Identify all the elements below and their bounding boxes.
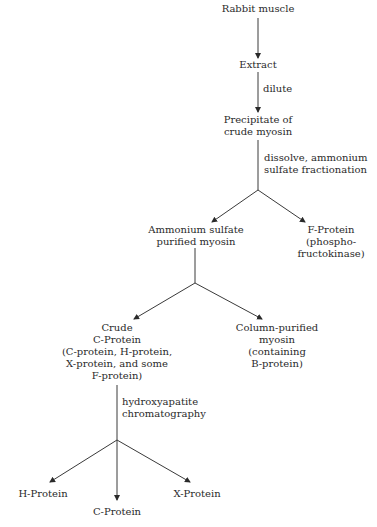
- node-text: purified myosin: [140, 236, 252, 248]
- node-text: C-Protein: [82, 506, 152, 518]
- node-ammonium-purified: Ammonium sulfate purified myosin: [140, 224, 252, 248]
- node-text: (C-protein, H-protein,: [50, 346, 184, 358]
- step-text: dilute: [263, 83, 292, 95]
- arrow-to-f-protein: [258, 190, 305, 222]
- step-dissolve: dissolve, ammonium sulfate fractionation: [264, 152, 368, 176]
- node-text: H-Protein: [8, 488, 78, 500]
- node-c-protein: C-Protein: [82, 506, 152, 518]
- arrow-to-ammonium-purified: [212, 190, 258, 222]
- node-text: Ammonium sulfate: [140, 224, 252, 236]
- node-x-protein: X-Protein: [162, 488, 232, 500]
- step-dilute: dilute: [263, 83, 292, 95]
- node-rabbit-muscle: Rabbit muscle: [208, 3, 308, 15]
- node-text: (containing: [222, 346, 332, 358]
- step-text: hydroxyapatite: [122, 396, 206, 408]
- node-text: Precipitate of: [203, 114, 313, 126]
- step-text: chromatography: [122, 408, 206, 420]
- node-text: myosin: [222, 334, 332, 346]
- flow-arrows: [0, 0, 377, 527]
- node-text: C-Protein: [50, 334, 184, 346]
- node-text: Crude: [50, 322, 184, 334]
- arrow-to-crude-c-protein: [134, 283, 195, 319]
- node-text: Column-purified: [222, 322, 332, 334]
- arrow-to-x-protein: [117, 440, 190, 482]
- node-f-protein: F-Protein (phospho- fructokinase): [288, 224, 374, 260]
- node-text: crude myosin: [203, 126, 313, 138]
- node-crude-c-protein: Crude C-Protein (C-protein, H-protein, X…: [50, 322, 184, 382]
- node-text: F-protein): [50, 370, 184, 382]
- node-column-purified: Column-purified myosin (containing B-pro…: [222, 322, 332, 370]
- node-text: F-Protein: [288, 224, 374, 236]
- arrow-to-h-protein: [50, 440, 117, 482]
- node-text: (phospho-: [288, 236, 374, 248]
- node-text: B-protein): [222, 358, 332, 370]
- node-extract: Extract: [218, 59, 298, 71]
- node-text: Rabbit muscle: [208, 3, 308, 15]
- node-h-protein: H-Protein: [8, 488, 78, 500]
- step-text: sulfate fractionation: [264, 164, 368, 176]
- node-text: Extract: [218, 59, 298, 71]
- step-hydroxyapatite: hydroxyapatite chromatography: [122, 396, 206, 420]
- step-text: dissolve, ammonium: [264, 152, 368, 164]
- node-text: fructokinase): [288, 248, 374, 260]
- node-text: X-protein, and some: [50, 358, 184, 370]
- arrow-to-column-purified: [195, 283, 262, 319]
- node-text: X-Protein: [162, 488, 232, 500]
- node-precipitate: Precipitate of crude myosin: [203, 114, 313, 138]
